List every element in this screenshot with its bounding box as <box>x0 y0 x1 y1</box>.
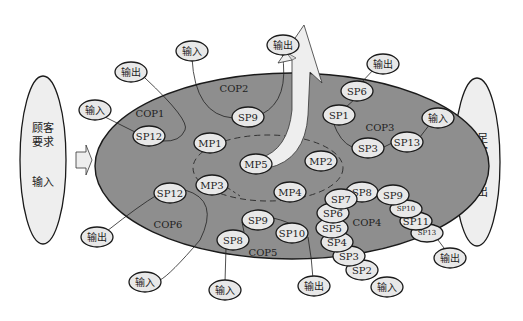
cop6-output-bubble: 输出 <box>81 227 113 247</box>
cop5-sp8-bubble: SP8 <box>217 230 249 250</box>
svg-text:输出: 输出 <box>440 252 460 264</box>
svg-text:输出: 输出 <box>273 39 293 51</box>
svg-text:SP8: SP8 <box>223 235 243 246</box>
left-input-label: 输入 <box>32 175 54 189</box>
cop2-input-bubble: 输入 <box>176 41 208 61</box>
cop4-sp7-bubble: SP7 <box>325 189 357 209</box>
mp4-bubble: MP4 <box>274 182 306 202</box>
cop2-label: COP2 <box>220 83 249 94</box>
cop6-label: COP6 <box>154 219 183 230</box>
svg-text:SP9: SP9 <box>238 112 258 123</box>
svg-text:输出: 输出 <box>121 66 141 78</box>
cop4-label: COP4 <box>353 217 382 228</box>
svg-text:SP5: SP5 <box>322 223 342 234</box>
customer-requirements-ellipse: 顾客 要求 输入 <box>20 76 66 244</box>
svg-text:SP9: SP9 <box>383 190 403 201</box>
svg-text:SP2: SP2 <box>352 265 372 276</box>
svg-text:MP4: MP4 <box>278 187 301 198</box>
cop4-output-bubble: 输出 <box>434 248 466 268</box>
svg-text:输入: 输入 <box>377 281 397 293</box>
svg-text:SP12: SP12 <box>136 131 162 142</box>
svg-text:SP9: SP9 <box>248 215 268 226</box>
cop4-sp9-bubble: SP9 <box>377 185 409 205</box>
left-input-arrow-icon <box>76 145 92 175</box>
left-title-line1: 顾客 <box>32 121 54 135</box>
svg-text:输入: 输入 <box>182 45 202 57</box>
mp2-bubble: MP2 <box>305 151 337 171</box>
svg-text:输出: 输出 <box>373 58 393 70</box>
svg-text:输出: 输出 <box>87 231 107 243</box>
cop3-sp3-bubble: SP3 <box>352 138 384 158</box>
cop5-label: COP5 <box>249 247 278 258</box>
cop3-output-bubble: 输出 <box>367 54 399 74</box>
svg-text:输入: 输入 <box>135 276 155 288</box>
cop3-sp13-bubble: SP13 <box>391 132 423 152</box>
svg-text:SP13: SP13 <box>394 137 420 148</box>
cop5-sp9-bubble: SP9 <box>242 210 274 230</box>
cop2-sp9-bubble: SP9 <box>232 107 264 127</box>
svg-text:输入: 输入 <box>428 112 448 124</box>
svg-text:MP5: MP5 <box>244 159 267 170</box>
process-diagram: 顾客 要求 输入 满足 顾客 要求 输出 <box>0 0 523 321</box>
svg-text:SP7: SP7 <box>331 194 351 205</box>
cop4-input-bubble: 输入 <box>371 277 403 297</box>
cop3-sp6-bubble: SP6 <box>341 81 373 101</box>
mp5-bubble: MP5 <box>240 154 272 174</box>
cop3-sp1-bubble: SP1 <box>323 105 355 125</box>
svg-text:SP1: SP1 <box>329 110 349 121</box>
svg-text:SP3: SP3 <box>358 143 378 154</box>
cop1-output-bubble: 输出 <box>115 62 147 82</box>
svg-text:输出: 输出 <box>304 280 324 292</box>
cop6-input-bubble: 输入 <box>129 272 161 292</box>
cop1-label: COP1 <box>136 108 165 119</box>
svg-text:MP3: MP3 <box>200 180 223 191</box>
cop5-output-bubble: 输出 <box>298 276 330 296</box>
cop3-label: COP3 <box>366 122 395 133</box>
svg-text:SP12: SP12 <box>157 188 183 199</box>
svg-text:输入: 输入 <box>85 104 105 116</box>
svg-text:MP1: MP1 <box>198 138 221 149</box>
mp1-bubble: MP1 <box>194 133 226 153</box>
svg-text:输入: 输入 <box>215 284 235 296</box>
cop6-sp12-bubble: SP12 <box>154 183 186 203</box>
svg-text:SP10: SP10 <box>279 228 305 239</box>
mp3-bubble: MP3 <box>196 175 228 195</box>
svg-text:SP6: SP6 <box>347 86 367 97</box>
cop1-sp12-bubble: SP12 <box>133 126 165 146</box>
svg-text:SP10: SP10 <box>397 205 415 213</box>
cop1-input-bubble: 输入 <box>79 100 111 120</box>
cop2-output-bubble: 输出 <box>267 35 299 55</box>
cop5-input-bubble: 输入 <box>209 280 241 300</box>
cop3-input-bubble: 输入 <box>422 108 454 128</box>
left-title-line2: 要求 <box>32 136 54 149</box>
cop5-sp10-bubble: SP10 <box>276 223 308 243</box>
svg-text:MP2: MP2 <box>309 156 332 167</box>
